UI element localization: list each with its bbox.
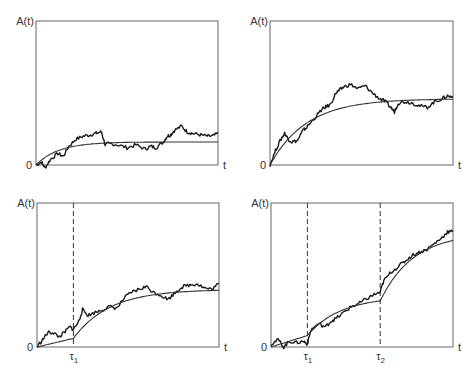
- y-axis-label: A(t): [17, 197, 35, 209]
- y-axis-label: A(t): [251, 197, 269, 209]
- x-axis-label: t: [458, 159, 461, 171]
- mean-curve: [271, 240, 453, 347]
- mean-curve: [36, 142, 218, 165]
- mean-curve: [37, 290, 219, 347]
- event-label: τ1: [69, 350, 78, 365]
- origin-label: 0: [27, 341, 33, 353]
- stochastic-trajectory: [271, 230, 453, 349]
- origin-label: 0: [26, 159, 32, 171]
- plot-frame: [37, 203, 219, 347]
- y-axis-label: A(t): [250, 15, 268, 27]
- figure-four-panels: A(t)t0 A(t)t0 A(t)t0τ1 A(t)t0τ1τ2: [0, 0, 473, 372]
- stochastic-trajectory: [37, 284, 219, 347]
- y-axis-label: A(t): [16, 15, 34, 27]
- event-label: τ1: [303, 350, 312, 365]
- stochastic-trajectory: [36, 125, 218, 168]
- origin-label: 0: [260, 159, 266, 171]
- panel-bottom-left: A(t)t0τ1: [17, 197, 227, 365]
- panel-bottom-right: A(t)t0τ1τ2: [251, 197, 461, 365]
- plot-frame: [36, 21, 218, 165]
- plot-frame: [270, 21, 453, 165]
- x-axis-label: t: [223, 159, 226, 171]
- panel-top-right: A(t)t0: [250, 15, 461, 171]
- origin-label: 0: [261, 341, 267, 353]
- event-label: τ2: [376, 350, 385, 365]
- stochastic-trajectory: [270, 84, 453, 167]
- panel-top-left: A(t)t0: [16, 15, 226, 171]
- mean-curve: [270, 99, 453, 165]
- x-axis-label: t: [224, 341, 227, 353]
- plot-frame: [271, 203, 453, 347]
- x-axis-label: t: [458, 341, 461, 353]
